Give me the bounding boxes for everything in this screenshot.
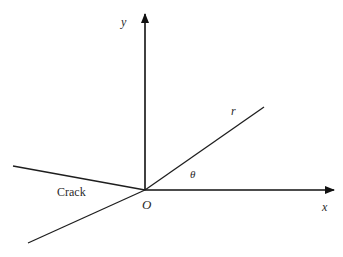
y-axis-label: y [120,15,127,29]
crack-tip-diagram: y x r θ O Crack [0,0,343,257]
angle-theta-label: θ [190,168,196,180]
crack-label: Crack [57,185,86,199]
radius-line [145,107,264,190]
origin-label: O [142,197,152,212]
x-axis-label: x [321,200,328,214]
crack-lower-face [28,190,145,243]
radius-label: r [231,104,236,118]
